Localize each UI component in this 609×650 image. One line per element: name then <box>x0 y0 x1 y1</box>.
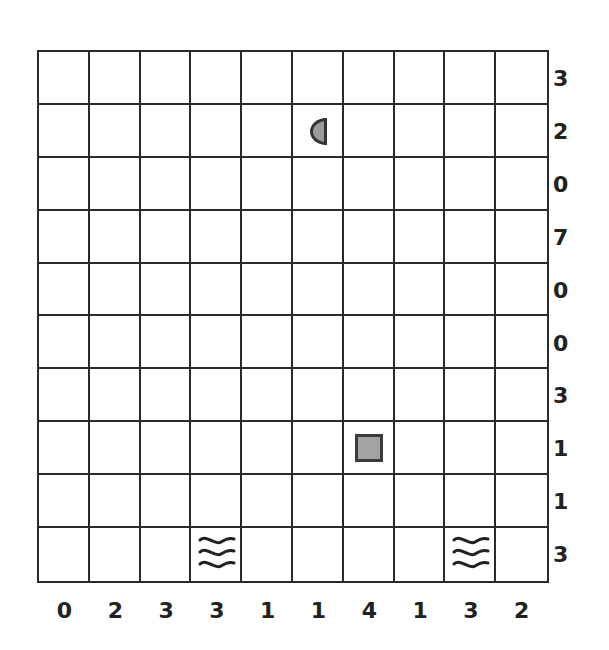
grid-cell-r1-c1[interactable] <box>39 52 90 105</box>
grid-cell-r5-c2[interactable] <box>90 264 141 317</box>
grid-cell-r2-c7[interactable] <box>344 105 395 158</box>
grid-cell-r9-c1[interactable] <box>39 475 90 528</box>
grid-cell-r6-c10[interactable] <box>496 316 547 369</box>
grid-cell-r1-c4[interactable] <box>191 52 242 105</box>
grid-cell-r10-c6[interactable] <box>293 528 344 581</box>
grid-cell-r3-c8[interactable] <box>395 158 446 211</box>
grid-cell-r9-c8[interactable] <box>395 475 446 528</box>
grid-cell-r8-c4[interactable] <box>191 422 242 475</box>
grid-cell-r6-c1[interactable] <box>39 316 90 369</box>
grid-cell-r10-c9[interactable] <box>445 528 496 581</box>
grid-cell-r4-c5[interactable] <box>242 211 293 264</box>
grid-cell-r4-c9[interactable] <box>445 211 496 264</box>
grid-cell-r3-c9[interactable] <box>445 158 496 211</box>
grid-cell-r6-c6[interactable] <box>293 316 344 369</box>
grid-cell-r3-c3[interactable] <box>141 158 192 211</box>
grid-cell-r8-c1[interactable] <box>39 422 90 475</box>
grid-cell-r8-c3[interactable] <box>141 422 192 475</box>
grid-cell-r8-c6[interactable] <box>293 422 344 475</box>
grid-cell-r6-c4[interactable] <box>191 316 242 369</box>
grid-cell-r1-c10[interactable] <box>496 52 547 105</box>
grid-cell-r9-c3[interactable] <box>141 475 192 528</box>
grid-cell-r1-c3[interactable] <box>141 52 192 105</box>
grid-cell-r9-c2[interactable] <box>90 475 141 528</box>
grid-cell-r9-c7[interactable] <box>344 475 395 528</box>
grid-cell-r4-c3[interactable] <box>141 211 192 264</box>
grid-cell-r3-c4[interactable] <box>191 158 242 211</box>
grid-cell-r3-c10[interactable] <box>496 158 547 211</box>
grid-cell-r3-c2[interactable] <box>90 158 141 211</box>
grid-cell-r10-c4[interactable] <box>191 528 242 581</box>
grid-cell-r1-c6[interactable] <box>293 52 344 105</box>
grid-cell-r6-c2[interactable] <box>90 316 141 369</box>
grid-cell-r4-c2[interactable] <box>90 211 141 264</box>
grid-cell-r10-c7[interactable] <box>344 528 395 581</box>
grid-cell-r1-c5[interactable] <box>242 52 293 105</box>
grid-cell-r4-c10[interactable] <box>496 211 547 264</box>
grid-cell-r9-c5[interactable] <box>242 475 293 528</box>
grid-cell-r6-c7[interactable] <box>344 316 395 369</box>
grid-cell-r7-c3[interactable] <box>141 369 192 422</box>
grid-cell-r3-c5[interactable] <box>242 158 293 211</box>
grid-cell-r10-c8[interactable] <box>395 528 446 581</box>
grid-cell-r7-c8[interactable] <box>395 369 446 422</box>
grid-cell-r7-c7[interactable] <box>344 369 395 422</box>
grid-cell-r9-c10[interactable] <box>496 475 547 528</box>
grid-cell-r2-c5[interactable] <box>242 105 293 158</box>
grid-cell-r8-c10[interactable] <box>496 422 547 475</box>
grid-cell-r7-c6[interactable] <box>293 369 344 422</box>
grid-cell-r8-c8[interactable] <box>395 422 446 475</box>
grid-cell-r9-c6[interactable] <box>293 475 344 528</box>
grid-cell-r8-c9[interactable] <box>445 422 496 475</box>
grid-cell-r1-c9[interactable] <box>445 52 496 105</box>
grid-cell-r4-c6[interactable] <box>293 211 344 264</box>
grid-cell-r10-c2[interactable] <box>90 528 141 581</box>
grid-cell-r8-c2[interactable] <box>90 422 141 475</box>
grid-cell-r10-c1[interactable] <box>39 528 90 581</box>
grid-cell-r4-c7[interactable] <box>344 211 395 264</box>
grid-cell-r5-c1[interactable] <box>39 264 90 317</box>
grid-cell-r2-c2[interactable] <box>90 105 141 158</box>
grid-cell-r5-c10[interactable] <box>496 264 547 317</box>
grid-cell-r4-c4[interactable] <box>191 211 242 264</box>
grid-cell-r2-c1[interactable] <box>39 105 90 158</box>
grid-cell-r1-c2[interactable] <box>90 52 141 105</box>
grid-cell-r7-c2[interactable] <box>90 369 141 422</box>
grid-cell-r3-c1[interactable] <box>39 158 90 211</box>
grid-cell-r2-c4[interactable] <box>191 105 242 158</box>
grid-cell-r5-c5[interactable] <box>242 264 293 317</box>
grid-cell-r8-c7[interactable] <box>344 422 395 475</box>
grid-cell-r10-c3[interactable] <box>141 528 192 581</box>
grid-cell-r2-c6[interactable] <box>293 105 344 158</box>
grid-cell-r9-c4[interactable] <box>191 475 242 528</box>
grid-cell-r2-c3[interactable] <box>141 105 192 158</box>
grid-cell-r8-c5[interactable] <box>242 422 293 475</box>
grid-cell-r5-c6[interactable] <box>293 264 344 317</box>
grid-cell-r6-c9[interactable] <box>445 316 496 369</box>
grid-cell-r3-c6[interactable] <box>293 158 344 211</box>
grid-cell-r9-c9[interactable] <box>445 475 496 528</box>
grid-cell-r6-c8[interactable] <box>395 316 446 369</box>
grid-cell-r2-c8[interactable] <box>395 105 446 158</box>
grid-cell-r7-c4[interactable] <box>191 369 242 422</box>
grid-cell-r6-c3[interactable] <box>141 316 192 369</box>
grid-cell-r5-c7[interactable] <box>344 264 395 317</box>
grid-cell-r2-c9[interactable] <box>445 105 496 158</box>
grid-cell-r1-c7[interactable] <box>344 52 395 105</box>
grid-cell-r5-c9[interactable] <box>445 264 496 317</box>
grid-cell-r7-c5[interactable] <box>242 369 293 422</box>
grid-cell-r5-c4[interactable] <box>191 264 242 317</box>
grid-cell-r5-c8[interactable] <box>395 264 446 317</box>
grid-cell-r10-c10[interactable] <box>496 528 547 581</box>
grid-cell-r3-c7[interactable] <box>344 158 395 211</box>
grid-cell-r4-c1[interactable] <box>39 211 90 264</box>
grid-cell-r1-c8[interactable] <box>395 52 446 105</box>
grid-cell-r5-c3[interactable] <box>141 264 192 317</box>
grid-cell-r7-c10[interactable] <box>496 369 547 422</box>
grid-cell-r7-c1[interactable] <box>39 369 90 422</box>
grid-cell-r6-c5[interactable] <box>242 316 293 369</box>
grid-cell-r4-c8[interactable] <box>395 211 446 264</box>
grid-cell-r7-c9[interactable] <box>445 369 496 422</box>
grid-cell-r2-c10[interactable] <box>496 105 547 158</box>
grid-cell-r10-c5[interactable] <box>242 528 293 581</box>
